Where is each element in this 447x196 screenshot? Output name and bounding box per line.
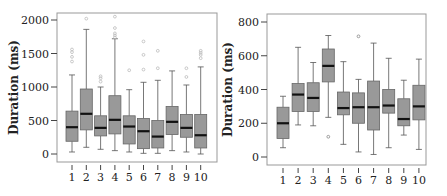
box-4: [109, 15, 121, 150]
iqr-box: [109, 96, 121, 134]
box-7: [368, 43, 380, 154]
iqr-box: [166, 106, 178, 134]
outlier-point: [156, 49, 159, 52]
iqr-box: [337, 92, 349, 115]
y-tick-label: 400: [238, 84, 259, 97]
x-tick-label: 9: [400, 174, 407, 187]
outlier-point: [114, 27, 117, 30]
iqr-box: [413, 85, 425, 120]
x-tick-label: 2: [295, 174, 302, 187]
outlier-point: [185, 67, 188, 70]
y-tick-label: 1000: [21, 81, 49, 94]
outlier-point: [142, 53, 145, 56]
x-tick-label: 10: [194, 171, 208, 184]
iqr-box: [152, 121, 164, 148]
outlier-point: [128, 69, 131, 72]
y-tick-label: 0: [42, 148, 49, 161]
box-10: [195, 49, 207, 154]
x-tick-label: 4: [111, 171, 118, 184]
plot-frame: [267, 14, 426, 165]
box-5: [123, 69, 135, 152]
box-3: [307, 63, 319, 126]
box-1: [66, 48, 78, 152]
y-axis-label: Duration (ms): [221, 42, 235, 137]
box-3: [95, 75, 107, 149]
outlier-point: [85, 17, 88, 20]
outlier-point: [114, 15, 117, 18]
outlier-point: [199, 57, 202, 60]
x-tick-label: 8: [169, 171, 176, 184]
box-6: [353, 35, 365, 152]
iqr-box: [195, 114, 207, 148]
iqr-box: [383, 90, 395, 114]
y-tick-label: 500: [28, 115, 49, 128]
plot-frame: [57, 13, 217, 162]
box-9: [398, 80, 410, 135]
outlier-point: [357, 35, 360, 38]
iqr-box: [398, 99, 410, 126]
box-8: [383, 58, 395, 147]
box-5: [337, 62, 349, 145]
iqr-box: [80, 89, 92, 130]
outlier-point: [185, 76, 188, 79]
y-tick-label: 0: [252, 151, 259, 164]
iqr-box: [368, 81, 380, 130]
x-tick-label: 5: [126, 171, 133, 184]
x-tick-label: 2: [83, 171, 90, 184]
outlier-point: [99, 80, 102, 83]
boxplot-right: 0200400600800Duration (ms)12345678910: [221, 14, 426, 187]
box-2: [292, 47, 304, 125]
y-tick-label: 1500: [21, 48, 49, 61]
box-2: [80, 17, 92, 147]
figure: 0500100015002000Duration (ms)12345678910…: [0, 0, 447, 196]
iqr-box: [180, 114, 192, 137]
box-4: [322, 36, 334, 139]
x-tick-label: 5: [340, 174, 347, 187]
x-tick-label: 1: [280, 174, 287, 187]
x-tick-label: 6: [355, 174, 362, 187]
x-tick-label: 3: [97, 171, 104, 184]
outlier-point: [71, 60, 74, 63]
box-7: [152, 49, 164, 153]
iqr-box: [138, 118, 150, 148]
x-tick-label: 9: [183, 171, 190, 184]
x-tick-label: 4: [325, 174, 332, 187]
x-tick-label: 7: [370, 174, 377, 187]
y-axis-label: Duration (ms): [7, 40, 21, 135]
outlier-point: [142, 68, 145, 71]
box-8: [166, 71, 178, 151]
outlier-point: [327, 135, 330, 138]
y-tick-label: 600: [238, 50, 259, 63]
y-tick-label: 800: [238, 16, 259, 29]
x-tick-label: 6: [140, 171, 147, 184]
boxplot-left: 0500100015002000Duration (ms)12345678910: [7, 13, 217, 184]
box-9: [180, 67, 192, 152]
iqr-box: [123, 116, 135, 144]
box-1: [277, 96, 289, 147]
outlier-point: [156, 67, 159, 70]
x-tick-label: 1: [69, 171, 76, 184]
x-tick-label: 7: [154, 171, 161, 184]
outlier-point: [142, 40, 145, 43]
y-tick-label: 2000: [21, 14, 49, 27]
iqr-box: [95, 116, 107, 136]
box-10: [413, 59, 425, 149]
y-tick-label: 200: [238, 117, 259, 130]
x-tick-label: 3: [310, 174, 317, 187]
box-6: [138, 40, 150, 153]
iqr-box: [292, 84, 304, 112]
outlier-point: [71, 55, 74, 58]
x-tick-label: 10: [412, 174, 426, 187]
x-tick-label: 8: [385, 174, 392, 187]
